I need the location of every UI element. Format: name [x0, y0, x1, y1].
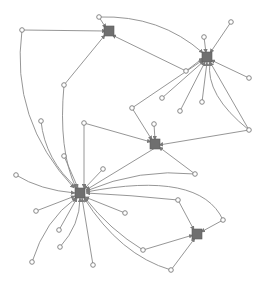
- edge-arrow: [201, 220, 223, 232]
- leaf-node-l3: [62, 83, 67, 88]
- leaf-node-l7: [247, 76, 252, 81]
- edge-arrow: [171, 238, 195, 270]
- edge-arrow: [210, 62, 249, 130]
- leaf-node-l4: [184, 69, 189, 74]
- leaf-node-l16: [62, 154, 67, 159]
- leaf-node-l21: [57, 228, 62, 233]
- leaf-node-layer: [14, 15, 252, 273]
- edge-arrow: [32, 198, 76, 262]
- leaf-node-l22: [58, 245, 63, 250]
- edge-arrow: [64, 35, 105, 85]
- hub-node-h1: [104, 26, 114, 36]
- edge-arrow: [143, 235, 193, 250]
- edge-arrow: [132, 108, 152, 140]
- hub-node-h5: [192, 229, 202, 239]
- edge-arrow: [112, 35, 186, 71]
- edge-arrow: [132, 60, 203, 108]
- leaf-node-l12: [130, 106, 135, 111]
- leaf-node-l19: [34, 209, 39, 214]
- edge-arrow: [210, 22, 231, 53]
- leaf-node-l25: [193, 172, 198, 177]
- leaf-node-l20: [123, 211, 128, 216]
- edge-arrow: [63, 85, 77, 188]
- leaf-node-l26: [176, 198, 181, 203]
- edge-arrow: [86, 185, 223, 220]
- leaf-node-l10: [247, 128, 252, 133]
- edge-arrow: [211, 60, 249, 78]
- edge-arrow: [84, 123, 151, 142]
- edge-arrow: [159, 147, 195, 174]
- edge-arrow: [202, 62, 207, 102]
- edge-layer: [16, 17, 249, 270]
- leaf-node-l1: [20, 28, 25, 33]
- edge-arrow: [159, 130, 249, 145]
- edge-arrow: [22, 30, 106, 31]
- leaf-node-l13: [160, 96, 165, 101]
- edge-arrow: [64, 156, 78, 188]
- edge-arrow: [99, 17, 203, 53]
- leaf-node-l17: [101, 167, 106, 172]
- leaf-node-l9: [200, 100, 205, 105]
- leaf-node-l24: [91, 263, 96, 268]
- leaf-node-l27: [221, 218, 226, 223]
- edge-arrow: [82, 198, 93, 265]
- leaf-node-l6: [229, 20, 234, 25]
- edge-arrow: [178, 200, 194, 230]
- hub-node-h3: [150, 139, 160, 149]
- edge-arrow: [85, 198, 143, 250]
- leaf-node-l28: [141, 248, 146, 253]
- leaf-node-l5: [202, 35, 207, 40]
- edge-arrow: [84, 198, 171, 270]
- leaf-node-l15: [82, 121, 87, 126]
- hub-node-layer: [75, 26, 212, 239]
- edge-arrow: [86, 148, 155, 190]
- leaf-node-l11: [152, 122, 157, 127]
- leaf-node-l2: [97, 15, 102, 20]
- edge-arrow: [84, 169, 103, 189]
- edge-arrow: [162, 61, 204, 98]
- leaf-node-l18: [14, 173, 19, 178]
- hub-node-h2: [202, 52, 212, 62]
- leaf-node-l8: [178, 109, 183, 114]
- network-diagram: [0, 0, 265, 283]
- leaf-node-l29: [169, 268, 174, 273]
- edge-arrow: [86, 193, 178, 200]
- leaf-node-l23: [30, 260, 35, 265]
- hub-node-h4: [75, 188, 85, 198]
- leaf-node-l14: [39, 119, 44, 124]
- edge-arrow: [20, 30, 74, 188]
